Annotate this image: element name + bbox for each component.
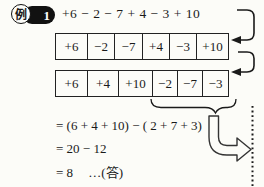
solution-result: = 8: [56, 165, 73, 180]
hook-arrow-bottom-icon: [231, 52, 254, 76]
big-hollow-arrow-icon: [209, 116, 251, 161]
example-number: 1: [44, 7, 51, 25]
solution-line-1: = (6 + 4 + 10) − ( 2 + 7 + 3): [56, 118, 202, 134]
row2-cell: −2: [153, 71, 178, 96]
underbrace-icon: [151, 99, 236, 113]
row1-cell: −3: [170, 34, 197, 59]
solution-line-2: = 20 − 12: [56, 141, 106, 157]
hook-arrow-top-icon: [231, 10, 254, 44]
row2-cell: +4: [88, 71, 119, 96]
answer-note: …(答): [88, 165, 123, 180]
row2-cell: +10: [119, 71, 153, 96]
row1-cell: +6: [56, 34, 88, 59]
row1-cell: −2: [88, 34, 115, 59]
original-order-row: +6 −2 −7 +4 −3 +10: [55, 33, 229, 60]
example-label: 例: [15, 5, 27, 23]
problem-expression: +6 − 2 − 7 + 4 − 3 + 10: [62, 6, 200, 22]
example-label-circle: 例: [11, 4, 31, 24]
textbook-example-page: 1 例 +6 − 2 − 7 + 4 − 3 + 10 +6 −2 −7 +4 …: [0, 0, 264, 187]
row1-cell: −7: [115, 34, 143, 59]
row2-cell: −3: [203, 71, 228, 96]
row2-cell: +6: [56, 71, 88, 96]
rearranged-order-row: +6 +4 +10 −2 −7 −3: [55, 70, 229, 97]
row2-cell: −7: [178, 71, 203, 96]
row1-cell: +4: [143, 34, 170, 59]
example-badge: 1 例: [11, 4, 55, 25]
row1-cell: +10: [197, 34, 228, 59]
solution-line-3: = 8 …(答): [56, 162, 123, 181]
